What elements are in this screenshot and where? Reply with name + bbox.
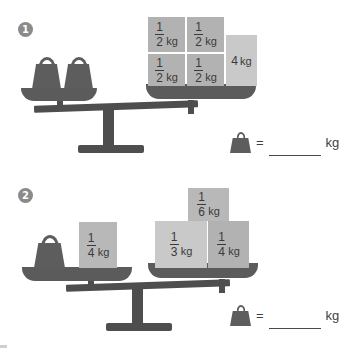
fraction-block: 1 2 kg: [148, 17, 185, 52]
unit-label: kg: [240, 55, 252, 68]
stone-body: [64, 64, 93, 89]
stone-ring-icon: [236, 132, 245, 139]
fraction-value: 1 2: [194, 21, 203, 48]
fraction-block: 1 4 kg: [79, 222, 117, 268]
answer-row-2: = kg: [230, 305, 339, 326]
fraction-block: 1 6 kg: [188, 188, 229, 221]
fraction-block: 1 2 kg: [148, 54, 185, 86]
stone-body: [230, 311, 251, 326]
fraction-value: 1 4: [217, 231, 226, 258]
unit-label: kg: [208, 205, 220, 218]
answer-blank-input[interactable]: [269, 313, 321, 329]
stone-weight-icon: [34, 235, 65, 268]
unit-label: kg: [166, 35, 178, 48]
unit-label: kg: [326, 135, 339, 150]
balance-hanger-right: [219, 279, 225, 293]
stone-body: [32, 64, 61, 89]
stone-weight-icon: [64, 57, 93, 89]
unit-label: kg: [228, 245, 240, 258]
weight-block: 4 kg: [226, 35, 257, 86]
problem-2: 2 1 4 kg 1 6 kg: [0, 175, 339, 350]
unit-label: kg: [98, 246, 110, 259]
stone-weight-icon: [32, 57, 61, 89]
unit-label: kg: [205, 71, 217, 84]
stone-weight-icon: [230, 132, 251, 153]
fraction-value: 1 2: [194, 57, 203, 84]
fraction-value: 1 3: [170, 231, 179, 258]
stone-weight-icon: [230, 305, 251, 326]
fraction-block: 1 2 kg: [187, 17, 224, 52]
fraction-value: 1 2: [155, 21, 164, 48]
problem-number-marker: 2: [18, 188, 33, 203]
right-pan-1: [146, 84, 256, 99]
fraction-block: 1 2 kg: [187, 54, 224, 86]
left-pan-1: [21, 88, 97, 101]
answer-blank-input[interactable]: [269, 140, 321, 156]
stone-body: [34, 243, 65, 268]
fraction-value: 1 4: [87, 232, 96, 259]
fraction-block: 1 3 kg: [155, 221, 207, 268]
fraction-value: 1 2: [155, 57, 164, 84]
unit-label: kg: [326, 308, 339, 323]
left-pan-2: [22, 267, 132, 281]
corner-tick-mark: [0, 345, 7, 348]
equals-sign: =: [256, 308, 264, 323]
block-value: 4: [231, 54, 238, 68]
fraction-value: 1 6: [197, 191, 206, 218]
stone-ring-icon: [236, 305, 245, 312]
unit-label: kg: [181, 245, 193, 258]
balance-column: [103, 104, 114, 148]
unit-label: kg: [205, 35, 217, 48]
balance-hanger-right: [188, 100, 194, 114]
answer-row-1: = kg: [230, 132, 339, 153]
fraction-block: 1 4 kg: [208, 221, 249, 268]
stone-body: [230, 138, 251, 153]
unit-label: kg: [166, 71, 178, 84]
problem-1: 1 1 2 kg 1: [0, 0, 339, 175]
problem-number-marker: 1: [18, 22, 33, 37]
equals-sign: =: [256, 135, 264, 150]
